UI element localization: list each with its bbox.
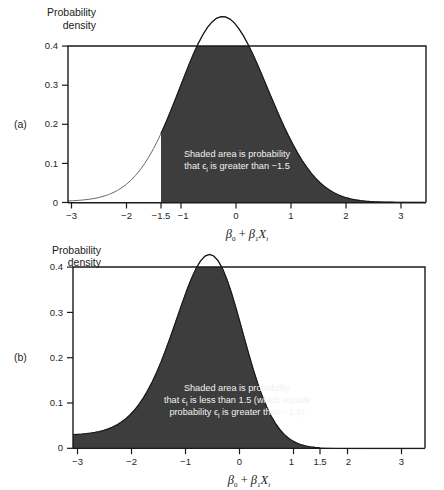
- x-subscript-i: i: [266, 235, 268, 243]
- x-tick-label-a-m1: −1: [178, 210, 189, 221]
- y-axis-label-b-line2: density: [68, 256, 102, 268]
- y-tick-label-a-0.2: 0.2: [45, 118, 58, 129]
- annot-b-text-1: that: [164, 395, 182, 405]
- x-tick-label-b-3: 3: [399, 456, 404, 467]
- x-tick-label-b-1p5: 1.5: [313, 456, 326, 467]
- x-tick-label-a-3: 3: [398, 210, 403, 221]
- x-ticks-b: [78, 448, 402, 454]
- y-tick-label-b-0: 0: [58, 442, 63, 453]
- shaded-area-a: [68, 17, 426, 203]
- y-tick-label-b-0.1: 0.1: [50, 397, 63, 408]
- y-tick-label-b-0.3: 0.3: [50, 307, 63, 318]
- x-tick-label-b-m1: −1: [180, 456, 191, 467]
- x-tick-label-a-m2: −2: [121, 210, 132, 221]
- x-axis-label-b: β0 + β1Xi: [227, 473, 270, 489]
- annot-a-text-1: that: [184, 161, 202, 171]
- y-axis-label-a-line1: Probability: [47, 6, 97, 18]
- x-tick-label-b-2: 2: [346, 456, 351, 467]
- y-tick-label-a-0.3: 0.3: [45, 79, 58, 90]
- x-tick-label-b-0: 0: [237, 456, 242, 467]
- y-tick-label-a-0: 0: [53, 197, 58, 208]
- annot-b-text-4: is greater than −1.5): [220, 407, 305, 417]
- x-tick-label-a-2: 2: [343, 210, 348, 221]
- x-ticks-a: [72, 203, 402, 209]
- annotation-b-line3: probability ϵi is greater than −1.5): [169, 407, 304, 419]
- y-ticks-a: [62, 46, 68, 202]
- y-axis-label-a-line2: density: [63, 19, 97, 31]
- panel-b-chart: 0 0.1 0.2 0.3 0.4 −3 −2 −1 0 1 1.5 2 3 P…: [0, 245, 444, 490]
- y-tick-label-b-0.2: 0.2: [50, 352, 63, 363]
- x-tick-label-a-0: 0: [233, 210, 238, 221]
- y-tick-label-a-0.1: 0.1: [45, 158, 58, 169]
- panel-a-chart: 0 0.1 0.2 0.3 0.4 −3 −2 −1.5 −1 0 1 2 3 …: [0, 0, 444, 245]
- x-tick-label-a-m1p5: −1.5: [152, 210, 171, 221]
- annot-a-text-2: is greater than −1.5: [208, 161, 290, 171]
- annotation-b-line1: Shaded area is probability: [184, 383, 291, 393]
- panel-b: 0 0.1 0.2 0.3 0.4 −3 −2 −1 0 1 1.5 2 3 P…: [0, 245, 444, 490]
- annot-b-text-3: probability: [169, 407, 213, 417]
- x-tick-label-a-m3: −3: [66, 210, 77, 221]
- y-axis-label-b-line1: Probability: [52, 245, 102, 256]
- x-tick-label-b-m2: −2: [126, 456, 137, 467]
- y-tick-label-a-0.4: 0.4: [45, 40, 58, 51]
- x-tick-label-b-m3: −3: [72, 456, 83, 467]
- plus-symbol: +: [238, 473, 251, 487]
- x-axis-label-a: β0 + β1Xi: [225, 227, 268, 243]
- plus-symbol: +: [236, 227, 249, 241]
- x-tick-label-a-1: 1: [288, 210, 293, 221]
- annotation-a-line1: Shaded area is probability: [184, 149, 291, 159]
- annotation-a-line2: that ϵi is greater than −1.5: [184, 161, 290, 173]
- x-subscript-i: i: [268, 481, 270, 489]
- y-tick-label-b-0.4: 0.4: [50, 261, 63, 272]
- shaded-area-b: [73, 254, 320, 448]
- panel-letter-b: (b): [14, 351, 27, 363]
- y-ticks-b: [67, 267, 73, 448]
- annot-b-text-2: is less than 1.5 (which equals: [187, 395, 310, 405]
- x-tick-label-b-1: 1: [289, 456, 294, 467]
- panel-a: 0 0.1 0.2 0.3 0.4 −3 −2 −1.5 −1 0 1 2 3 …: [0, 0, 444, 245]
- panel-letter-a: (a): [14, 118, 27, 130]
